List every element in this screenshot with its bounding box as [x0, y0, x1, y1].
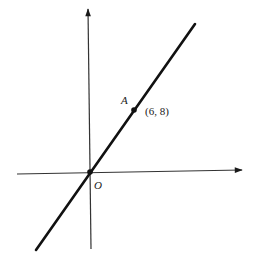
coordinate-diagram: A (6, 8) O [0, 0, 254, 262]
origin-point [87, 169, 93, 175]
y-axis [88, 9, 91, 249]
point-a [131, 107, 137, 113]
point-a-label: A [120, 94, 128, 106]
line-through-origin [36, 24, 195, 250]
x-axis [17, 170, 242, 174]
origin-label: O [94, 179, 102, 191]
point-a-coordinates: (6, 8) [145, 105, 169, 118]
